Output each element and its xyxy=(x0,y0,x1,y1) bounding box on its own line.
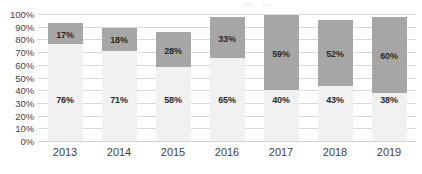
bar-group[interactable]: 28%58% xyxy=(156,14,191,141)
y-axis-tick-label: 70% xyxy=(15,47,34,58)
x-axis-tick-label: 2017 xyxy=(269,146,293,158)
y-axis: 0%10%20%30%40%50%60%70%80%90%100% xyxy=(0,14,34,141)
bar-value-label-lower: 58% xyxy=(156,95,191,105)
x-axis-tick-label: 2013 xyxy=(53,146,77,158)
y-axis-tick-label: 50% xyxy=(15,72,34,83)
y-axis-tick-label: 20% xyxy=(15,110,34,121)
bar-group[interactable]: 60%38% xyxy=(372,14,407,141)
bar-value-label-upper: 33% xyxy=(210,34,245,44)
y-axis-tick-label: 40% xyxy=(15,85,34,96)
bar-value-label-lower: 65% xyxy=(210,95,245,105)
y-axis-tick-label: 80% xyxy=(15,34,34,45)
plot-area: 17%76%18%71%28%58%33%65%59%40%52%43%60%3… xyxy=(38,14,416,141)
bar-value-label-upper: 28% xyxy=(156,46,191,56)
legend-swatch-icon xyxy=(262,3,271,7)
bar-value-label-lower: 38% xyxy=(372,95,407,105)
legend-swatch-icon xyxy=(243,3,252,7)
x-axis-tick-label: 2019 xyxy=(377,146,401,158)
y-axis-tick-label: 10% xyxy=(15,123,34,134)
y-axis-tick-label: 90% xyxy=(15,21,34,32)
bar-value-label-upper: 52% xyxy=(318,49,353,59)
legend-cropped xyxy=(243,0,418,7)
bar-group[interactable]: 17%76% xyxy=(48,14,83,141)
bar-value-label-lower: 40% xyxy=(264,95,299,105)
bar-group[interactable]: 33%65% xyxy=(210,14,245,141)
y-axis-tick-label: 100% xyxy=(10,9,34,20)
bar-value-label-lower: 76% xyxy=(48,95,83,105)
bar-series-container: 17%76%18%71%28%58%33%65%59%40%52%43%60%3… xyxy=(38,14,416,141)
stacked-bar-chart: 0%10%20%30%40%50%60%70%80%90%100% 17%76%… xyxy=(0,0,422,174)
x-axis-tick-label: 2014 xyxy=(107,146,131,158)
gridline xyxy=(38,141,416,142)
x-axis: 2013201420152016201720182019 xyxy=(38,146,416,168)
bar-value-label-lower: 71% xyxy=(102,95,137,105)
bar-group[interactable]: 18%71% xyxy=(102,14,137,141)
bar-segment-lower[interactable] xyxy=(48,44,83,141)
bar-value-label-upper: 18% xyxy=(102,35,137,45)
y-axis-tick-label: 60% xyxy=(15,59,34,70)
y-axis-tick-label: 0% xyxy=(20,136,34,147)
bar-group[interactable]: 52%43% xyxy=(318,14,353,141)
bar-group[interactable]: 59%40% xyxy=(264,14,299,141)
bar-value-label-upper: 17% xyxy=(48,30,83,40)
x-axis-tick-label: 2015 xyxy=(161,146,185,158)
x-axis-tick-label: 2018 xyxy=(323,146,347,158)
bar-value-label-lower: 43% xyxy=(318,95,353,105)
x-axis-tick-label: 2016 xyxy=(215,146,239,158)
bar-value-label-upper: 59% xyxy=(264,49,299,59)
bar-value-label-upper: 60% xyxy=(372,51,407,61)
y-axis-tick-label: 30% xyxy=(15,97,34,108)
